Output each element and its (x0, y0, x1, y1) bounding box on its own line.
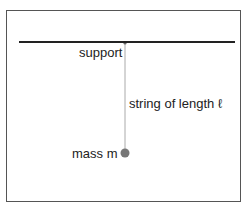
mass-label: mass m (72, 147, 118, 160)
string-label: string of length ℓ (129, 97, 222, 110)
pendulum-mass (121, 149, 130, 158)
support-label: support (79, 46, 122, 59)
